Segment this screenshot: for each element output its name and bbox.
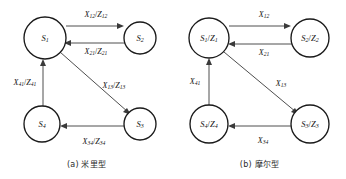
- moore-state-diagram: S1/Z1 S2/Z2 S3/Z3 S4/Z4 X12 X21 X13 X34 …: [173, 0, 346, 160]
- node-s4[interactable]: S4/Z4: [190, 105, 228, 143]
- edge-s4-to-s1: [206, 58, 212, 105]
- edge-s4-to-s1: [40, 59, 46, 106]
- edge-s2-to-s1: [64, 40, 126, 46]
- edge-label-x12: X12: [258, 10, 270, 20]
- node-s4[interactable]: S4: [24, 106, 60, 142]
- node-s1[interactable]: S1: [24, 17, 66, 59]
- edge-s2-to-s1: [228, 41, 293, 47]
- edge-label-x21: X21: [258, 48, 270, 58]
- edge-s3-to-s4: [60, 123, 124, 129]
- edge-s1-to-s2: [229, 23, 291, 29]
- edge-label-x13: X13: [275, 79, 287, 89]
- edge-label-x12-z12: X12/Z12: [84, 10, 108, 20]
- node-s2[interactable]: S2: [124, 22, 156, 54]
- node-s1[interactable]: S1/Z1: [189, 18, 229, 58]
- edge-label-x34-z34: X34/Z34: [82, 137, 106, 147]
- panel-moore-diagram: S1/Z1 S2/Z2 S3/Z3 S4/Z4 X12 X21 X13 X34 …: [173, 0, 346, 179]
- edge-s1-to-s3: [224, 52, 299, 115]
- edge-label-x41-z41: X41/Z41: [13, 78, 37, 88]
- node-s2[interactable]: S2/Z2: [291, 19, 329, 57]
- panel-mealy-diagram: S1 S2 S3 S4 X12/Z12 X21/Z21 X13/Z13 X34/…: [0, 0, 173, 179]
- edge-label-x21-z21: X21/Z21: [84, 47, 108, 57]
- edge-label-x41: X41: [189, 77, 201, 87]
- edge-s1-to-s2: [66, 23, 124, 29]
- mealy-state-diagram: S1 S2 S3 S4 X12/Z12 X21/Z21 X13/Z13 X34/…: [0, 0, 173, 160]
- node-s3[interactable]: S3/Z3: [291, 105, 329, 143]
- edge-s3-to-s4: [228, 123, 291, 129]
- node-s3[interactable]: S3: [124, 108, 156, 140]
- edge-label-x13-z13: X13/Z13: [102, 81, 126, 91]
- caption-mealy: (a) 米里型: [0, 158, 173, 169]
- figure-container: S1 S2 S3 S4 X12/Z12 X21/Z21 X13/Z13 X34/…: [0, 0, 346, 179]
- edge-label-x34: X34: [257, 136, 269, 146]
- caption-moore: (b) 摩尔型: [173, 158, 346, 169]
